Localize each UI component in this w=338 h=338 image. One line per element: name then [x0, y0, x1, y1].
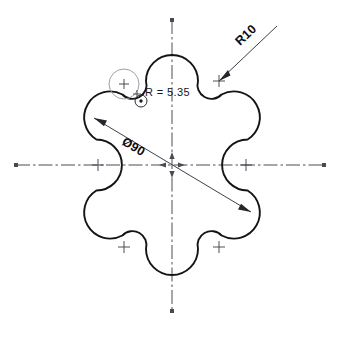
fillet-detail-group: [109, 69, 147, 107]
centerline-tick-left: [159, 162, 166, 167]
center-mark-right-lobe: [240, 159, 252, 171]
fillet-note-group: R = 5.35: [145, 86, 190, 98]
centerline-tick-top: [169, 152, 174, 159]
radius-label: R10: [232, 22, 259, 48]
technical-drawing-canvas: Ø90 R10 R = 5.35: [0, 0, 338, 338]
center-mark-lower-left-lobe: [118, 241, 130, 253]
center-mark-left-lobe: [92, 159, 104, 171]
centerline-endpoint-right: [322, 163, 326, 167]
centerline-tick-right: [178, 162, 185, 167]
centerlines-group: [14, 18, 326, 313]
centerline-endpoint-left: [14, 163, 18, 167]
diameter-label: Ø90: [119, 135, 147, 159]
center-mark-lower-right-lobe: [213, 241, 225, 253]
centerline-endpoint-top: [170, 18, 174, 22]
centerline-tick-bottom: [169, 171, 174, 178]
centerline-endpoint-bottom: [170, 309, 174, 313]
drawing-sheet: Ø90 R10 R = 5.35: [0, 0, 338, 338]
fillet-radius-label: R = 5.35: [145, 86, 190, 98]
radius-dimension-group: R10: [219, 22, 277, 81]
small-bore-center-dot: [139, 99, 142, 102]
center-mark-upper-left-lobe: [119, 79, 129, 89]
